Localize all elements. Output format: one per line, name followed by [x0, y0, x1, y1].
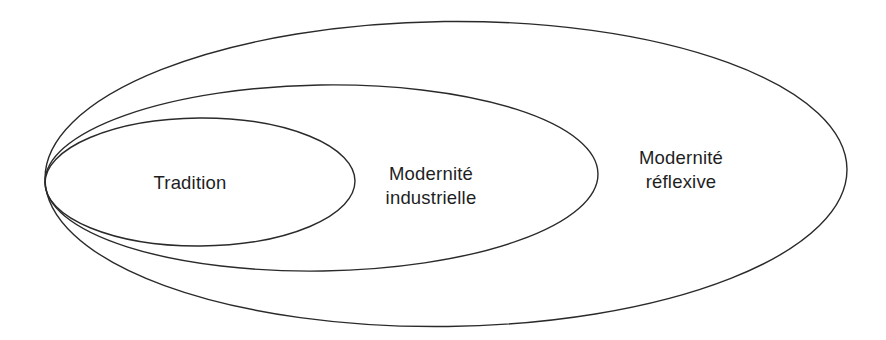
label-tradition: Tradition [153, 171, 226, 195]
label-tradition-line-1: Tradition [153, 171, 226, 195]
label-modernite-reflexive-line-1: Modernité [639, 146, 723, 170]
label-modernite-industrielle: Modernité industrielle [386, 162, 477, 210]
label-modernite-reflexive: Modernité réflexive [639, 146, 723, 194]
label-modernite-industrielle-line-1: Modernité [386, 162, 477, 186]
label-modernite-industrielle-line-2: industrielle [386, 186, 477, 210]
ellipse-modernite-industrielle [44, 81, 600, 276]
label-modernite-reflexive-line-2: réflexive [639, 170, 723, 194]
